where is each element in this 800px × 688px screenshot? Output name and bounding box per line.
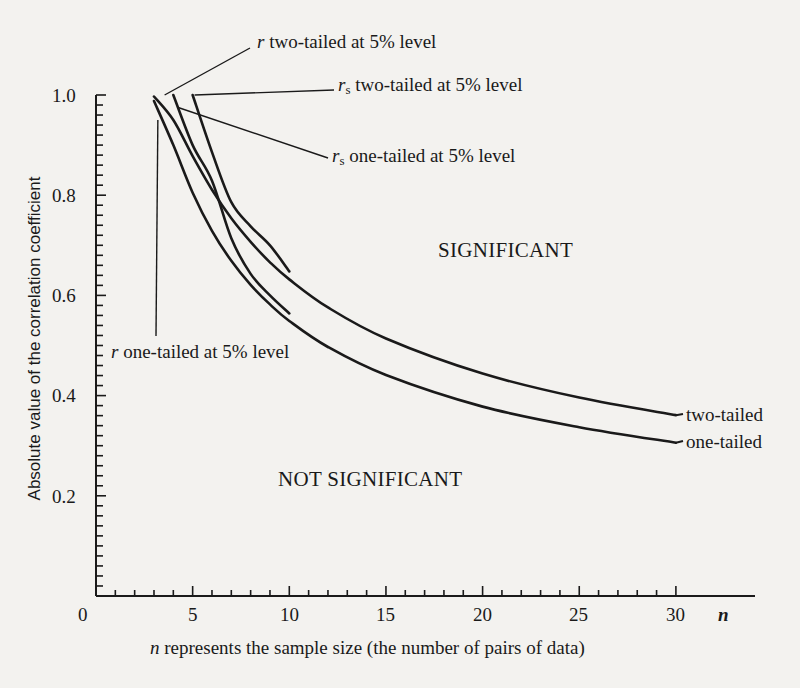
x-tick-label: 25 <box>569 605 588 624</box>
y-tick-label: 0.2 <box>52 487 76 506</box>
chart-figure: 1.0 0.8 0.6 0.4 0.2 0 5 10 15 20 25 30 n… <box>0 0 800 688</box>
label-text: one-tailed at 5% level <box>118 341 289 362</box>
label-end-two-tailed: two-tailed <box>686 405 763 424</box>
leader-rs-two-tailed <box>195 90 334 95</box>
y-tick-label: 0.8 <box>52 186 76 205</box>
x-axis-variable-label: n <box>718 605 729 624</box>
leader-r-two-tailed <box>165 48 250 95</box>
label-r-two-tailed: r two-tailed at 5% level <box>257 32 436 51</box>
label-rs-two-tailed: rs two-tailed at 5% level <box>338 75 522 96</box>
region-not-significant: NOT SIGNIFICANT <box>278 469 462 490</box>
x-axis-title-variable: n <box>150 637 160 658</box>
label-text: two-tailed at 5% level <box>264 31 436 52</box>
y-tick-label: 0.4 <box>52 386 76 405</box>
x-tick-label: 0 <box>78 605 88 624</box>
y-tick-label: 1.0 <box>52 86 76 105</box>
leader-end-one-tailed <box>676 441 683 443</box>
x-axis-title: n represents the sample size (the number… <box>150 638 585 657</box>
label-rs-one-tailed: rs one-tailed at 5% level <box>332 146 515 167</box>
x-tick-label: 15 <box>376 605 395 624</box>
leader-rs-one-tailed <box>178 108 328 158</box>
label-text: two-tailed at 5% level <box>350 74 522 95</box>
y-axis-title: Absolute value of the correlation coeffi… <box>26 159 43 519</box>
y-tick-label: 0.6 <box>52 286 76 305</box>
x-tick-label: 10 <box>280 605 299 624</box>
x-tick-label: 5 <box>188 605 198 624</box>
label-r-one-tailed: r one-tailed at 5% level <box>111 342 289 361</box>
leader-end-two-tailed <box>676 414 683 415</box>
label-text: one-tailed at 5% level <box>344 145 515 166</box>
leader-r-one-tailed <box>156 120 158 336</box>
x-axis-title-text: represents the sample size (the number o… <box>160 637 585 658</box>
x-tick-label: 20 <box>473 605 492 624</box>
label-end-one-tailed: one-tailed <box>686 432 762 451</box>
region-significant: SIGNIFICANT <box>438 240 573 261</box>
x-tick-label: 30 <box>666 605 685 624</box>
